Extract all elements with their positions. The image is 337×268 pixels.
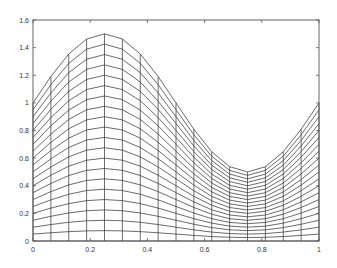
x-tick-label: 0.2: [85, 246, 95, 253]
y-tick-label: 0.4: [19, 182, 29, 189]
y-tick-label: 1.2: [19, 72, 29, 79]
y-tick-label: 1: [25, 99, 29, 106]
x-tick-label: 0.6: [200, 246, 210, 253]
y-tick-label: 0.6: [19, 155, 29, 162]
x-tick-label: 0.4: [143, 246, 153, 253]
x-tick-label: 0: [31, 246, 35, 253]
mesh-chart: 00.20.40.60.81 00.20.40.60.811.21.41.6: [0, 0, 337, 268]
y-tick-label: 0: [25, 238, 29, 245]
x-tick-label: 0.8: [257, 246, 267, 253]
y-tick-label: 0.2: [19, 210, 29, 217]
y-tick-label: 1.4: [19, 44, 29, 51]
y-tick-label: 0.8: [19, 127, 29, 134]
x-axis-tick-labels: 00.20.40.60.81: [31, 246, 321, 253]
mesh-lines: [33, 34, 319, 241]
x-tick-label: 1: [317, 246, 321, 253]
y-tick-label: 1.6: [19, 17, 29, 24]
y-axis-tick-labels: 00.20.40.60.811.21.41.6: [19, 17, 29, 245]
